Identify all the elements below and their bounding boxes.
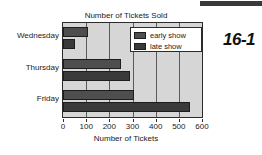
legend-item-early-show: early show — [134, 30, 198, 40]
bar-group: Thursday — [63, 58, 202, 85]
x-axis-title: Number of Tickets — [46, 134, 206, 143]
tick-label: 600 — [195, 122, 208, 131]
category-label: Friday — [37, 94, 59, 104]
bar-late-show — [63, 102, 190, 112]
legend-swatch-late-show — [134, 43, 146, 50]
bar-early-show — [63, 59, 121, 69]
category-label: Thursday — [26, 63, 59, 73]
tick-label: 100 — [79, 122, 92, 131]
bar-late-show — [63, 39, 75, 49]
bar-early-show — [63, 27, 88, 37]
bar-group: Friday — [63, 89, 202, 116]
chart-legend: early show late show — [130, 27, 202, 52]
legend-label-late-show: late show — [150, 42, 182, 51]
legend-swatch-early-show — [134, 32, 146, 39]
legend-label-early-show: early show — [150, 31, 186, 40]
category-label: Wednesday — [17, 31, 59, 41]
tick-label: 0 — [61, 122, 65, 131]
chart-figure: Number of Tickets Sold WednesdayThursday… — [0, 0, 206, 155]
legend-item-late-show: late show — [134, 41, 198, 51]
tick-label: 500 — [172, 122, 185, 131]
chart-title: Number of Tickets Sold — [46, 11, 206, 20]
tick-label: 400 — [149, 122, 162, 131]
page-marker: 16-1 — [216, 28, 262, 52]
tick-label: 300 — [126, 122, 139, 131]
bar-early-show — [63, 90, 134, 100]
bar-late-show — [63, 71, 130, 81]
x-axis-ticks: 0100200300400500600 — [62, 119, 203, 131]
top-edge-artifact — [200, 1, 262, 6]
tick-label: 200 — [103, 122, 116, 131]
